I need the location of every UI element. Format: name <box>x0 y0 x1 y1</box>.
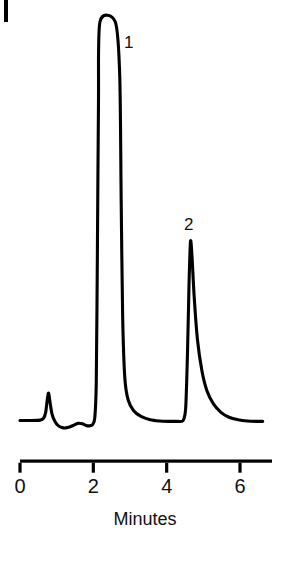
x-axis-title: Minutes <box>113 510 176 528</box>
detector-response-trace <box>20 15 263 428</box>
peak-label-2: 2 <box>184 216 193 233</box>
y-axis-stub <box>4 0 8 22</box>
x-axis-tick-label-6: 6 <box>234 476 245 496</box>
chromatogram-figure: 1 2 0246 Minutes <box>0 0 288 573</box>
x-axis-tick-0 <box>18 463 21 473</box>
x-axis-tick-6 <box>238 463 241 473</box>
x-axis-line <box>20 460 272 463</box>
x-axis-tick-2 <box>92 463 95 473</box>
x-axis-tick-label-0: 0 <box>14 476 25 496</box>
peak-label-1: 1 <box>124 34 133 51</box>
x-axis-ticks <box>18 463 241 473</box>
x-axis-tick-4 <box>165 463 168 473</box>
x-axis-tick-label-2: 2 <box>88 476 99 496</box>
x-axis-tick-label-4: 4 <box>161 476 172 496</box>
